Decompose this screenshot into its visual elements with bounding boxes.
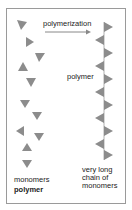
monomer-triangle-icon <box>26 78 36 87</box>
monomers-group <box>16 20 45 168</box>
monomers-label: monomers <box>14 176 49 185</box>
monomer-triangle-icon <box>34 133 44 141</box>
chain-triangle-icon <box>104 74 113 84</box>
chain-caption-line-3: monomers <box>82 182 117 191</box>
monomer-triangle-icon <box>22 160 32 168</box>
monomer-triangle-icon <box>16 126 24 136</box>
chain-triangle-icon <box>104 100 113 110</box>
polymer-section-label: polymer <box>14 186 43 195</box>
chain-triangle-icon <box>95 113 104 123</box>
arrow-icon <box>45 30 91 35</box>
monomer-triangle-icon <box>32 112 42 120</box>
monomer-triangle-icon <box>17 20 27 30</box>
chain-triangle-icon <box>95 35 104 45</box>
monomer-triangle-icon <box>22 143 32 151</box>
polymer-chain <box>95 22 113 160</box>
chain-triangle-icon <box>104 126 113 136</box>
monomer-triangle-icon <box>26 37 34 47</box>
chain-triangle-icon <box>104 48 113 58</box>
monomer-triangle-icon <box>20 100 30 108</box>
chain-triangle-icon <box>104 22 113 32</box>
polymerization-label: polymerization <box>43 20 91 29</box>
monomer-triangle-icon <box>35 53 45 62</box>
monomer-triangle-icon <box>18 62 28 71</box>
chain-triangle-icon <box>95 61 104 71</box>
chain-triangle-icon <box>95 87 104 97</box>
chain-triangle-icon <box>104 150 113 160</box>
polymer-chain-label: polymer <box>67 73 94 82</box>
chain-triangle-icon <box>95 139 104 149</box>
